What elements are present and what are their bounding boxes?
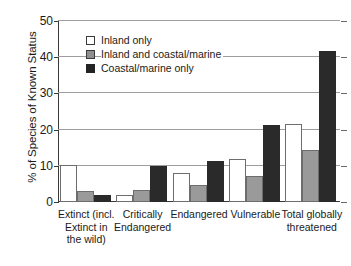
legend-item: Coastal/marine only: [86, 62, 223, 75]
bar: [302, 150, 319, 202]
bar: [190, 185, 207, 202]
y-tick-label-10: 10: [25, 160, 53, 172]
x-axis-label-line: threatened: [267, 221, 351, 234]
bar: [319, 51, 336, 202]
legend-item: Inland only: [86, 34, 223, 47]
gridline-30: [58, 92, 340, 93]
legend-swatch-icon: [86, 64, 95, 73]
bar-chart: % of Species of Known Status 01020304050…: [0, 0, 351, 266]
y-tick-mark-right-10: [341, 166, 347, 167]
bar: [77, 191, 94, 202]
bar: [246, 176, 263, 202]
x-axis-label: Total globallythreatened: [267, 208, 351, 233]
legend-item-label: Coastal/marine only: [101, 63, 196, 74]
legend: Inland onlyInland and coastal/marineCoas…: [86, 34, 223, 76]
y-tick-label-40: 40: [25, 51, 53, 63]
legend-swatch-icon: [86, 36, 95, 45]
y-tick-label-0: 0: [25, 196, 53, 208]
legend-item: Inland and coastal/marine: [86, 48, 223, 61]
y-tick-label-20: 20: [25, 124, 53, 136]
x-axis-label-line: the wild): [41, 233, 131, 246]
bar: [229, 159, 246, 202]
y-tick-label-50: 50: [25, 15, 53, 27]
bar: [207, 161, 224, 202]
y-tick-mark-right-40: [341, 57, 347, 58]
bar: [150, 166, 167, 202]
x-axis-label-line: Endangered: [98, 221, 188, 234]
y-tick-mark-right-20: [341, 130, 347, 131]
y-tick-label-30: 30: [25, 87, 53, 99]
bar: [263, 125, 280, 202]
bar: [285, 124, 302, 202]
y-tick-mark-right-30: [341, 93, 347, 94]
bar: [60, 165, 77, 202]
legend-item-label: Inland and coastal/marine: [101, 49, 223, 60]
y-tick-mark-right-50: [341, 21, 347, 22]
y-tick-mark-0: [54, 202, 58, 203]
x-axis-label-line: Total globally: [267, 208, 351, 221]
bar: [173, 173, 190, 202]
legend-item-label: Inland only: [101, 35, 154, 46]
y-axis-title: % of Species of Known Status: [26, 7, 38, 207]
gridline-50: [58, 20, 340, 21]
y-tick-mark-right-0: [341, 202, 347, 203]
bar: [133, 190, 150, 202]
bar: [116, 195, 133, 202]
legend-swatch-icon: [86, 50, 95, 59]
bar: [94, 195, 111, 202]
